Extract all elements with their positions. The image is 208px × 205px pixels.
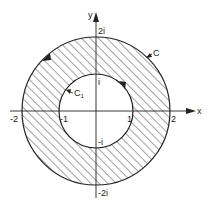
tick-y-neg2: -2i (98, 188, 108, 198)
tick-x-pos1: 1 (127, 114, 132, 124)
annulus-diagram: x y -2 -1 1 2 2i i -i -2i C C1 (0, 0, 208, 205)
tick-y-pos1: i (98, 77, 100, 87)
tick-x-neg1: -1 (60, 114, 68, 124)
tick-x-pos2: 2 (171, 114, 176, 124)
tick-y-pos2: 2i (98, 26, 105, 36)
curve-label-c: C (153, 48, 160, 58)
x-axis-label: x (197, 106, 202, 116)
y-axis-label: y (88, 10, 93, 20)
tick-x-neg2: -2 (10, 114, 18, 124)
tick-y-neg1: -i (98, 137, 103, 147)
